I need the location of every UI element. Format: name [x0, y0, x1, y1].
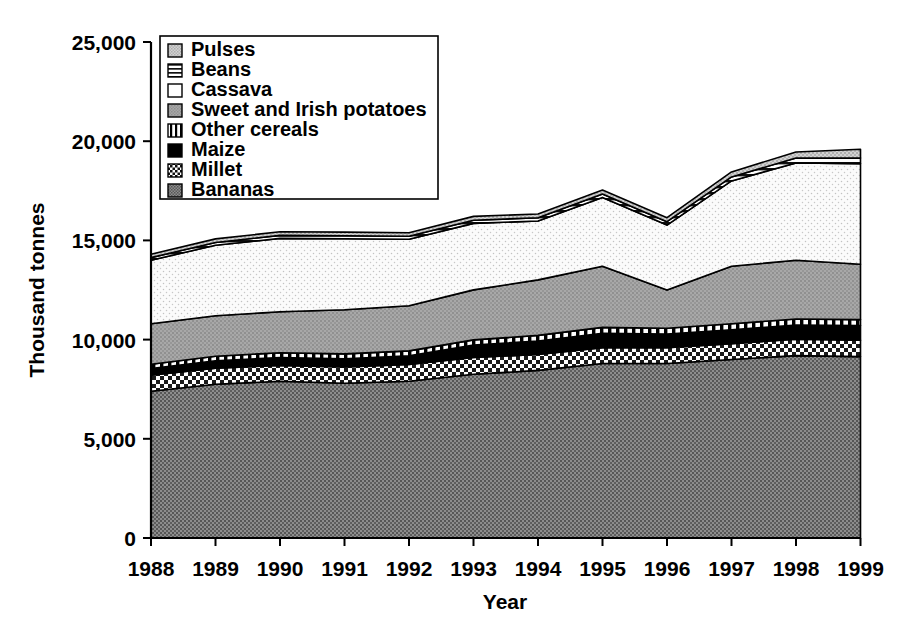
legend-label-pulses: Pulses	[191, 38, 255, 60]
legend-label-bananas: Bananas	[191, 178, 274, 200]
legend-swatch-bananas-icon	[168, 184, 182, 197]
y-axis-title: Thousand tonnes	[25, 203, 48, 378]
x-tick-label-1999: 1999	[837, 557, 884, 580]
x-tick-label-1997: 1997	[708, 557, 755, 580]
legend-label-cassava: Cassava	[191, 78, 273, 100]
legend-label-beans: Beans	[191, 58, 251, 80]
y-tick-label-0: 0	[124, 527, 136, 550]
y-tick-label-20000: 20,000	[72, 130, 136, 153]
x-tick-label-1996: 1996	[644, 557, 691, 580]
legend-swatch-pulses-icon	[168, 44, 182, 57]
x-tick-labels: 1988 1989 1990 1991 1992 1993 1994 1995 …	[128, 557, 884, 580]
y-tick-label-10000: 10,000	[72, 329, 136, 352]
legend-label-other-cereals: Other cereals	[191, 118, 319, 140]
stacked-area-chart-figure: 25,000 20,000 15,000 10,000 5,000 0 1988…	[0, 0, 904, 621]
x-tick-label-1998: 1998	[773, 557, 820, 580]
x-tick-label-1989: 1989	[192, 557, 239, 580]
x-tick-label-1992: 1992	[386, 557, 433, 580]
y-tick-label-25000: 25,000	[72, 31, 136, 54]
legend-swatch-beans-icon	[168, 64, 182, 77]
chart-svg: 25,000 20,000 15,000 10,000 5,000 0 1988…	[0, 0, 904, 621]
x-tick-label-1990: 1990	[257, 557, 304, 580]
legend-swatch-maize-icon	[168, 144, 182, 157]
legend-label-maize: Maize	[191, 138, 245, 160]
x-axis-title: Year	[483, 590, 527, 613]
legend-swatch-other-cereals-icon	[168, 124, 182, 137]
legend-swatch-millet-icon	[168, 164, 182, 177]
x-tick-label-1991: 1991	[321, 557, 368, 580]
legend-label-sweet-and-irish-potatoes: Sweet and Irish potatoes	[191, 98, 427, 120]
legend-swatch-potatoes-icon	[168, 104, 182, 117]
x-tick-label-1988: 1988	[128, 557, 175, 580]
y-tick-label-15000: 15,000	[72, 229, 136, 252]
legend: Pulses Beans Cassava Sweet and Irish pot…	[160, 36, 438, 200]
x-tick-label-1995: 1995	[579, 557, 626, 580]
y-tick-labels: 25,000 20,000 15,000 10,000 5,000 0	[72, 31, 136, 550]
legend-item-other-cereals[interactable]: Other cereals	[168, 118, 319, 140]
x-tick-label-1994: 1994	[515, 557, 562, 580]
y-tick-label-5000: 5,000	[83, 428, 136, 451]
legend-label-millet: Millet	[191, 158, 242, 180]
x-tick-label-1993: 1993	[450, 557, 497, 580]
legend-item-sweet-and-irish-potatoes[interactable]: Sweet and Irish potatoes	[168, 98, 427, 120]
legend-swatch-cassava-icon	[168, 84, 182, 97]
